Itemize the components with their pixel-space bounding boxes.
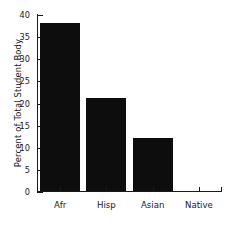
plot-area: 0510152025303540 AfrHispAsianNative — [37, 14, 222, 192]
y-tick-mark — [38, 192, 43, 193]
chart-title — [45, 0, 195, 2]
x-tick-label: Asian — [141, 200, 164, 210]
bar-chart: Percent of Total Student Body 0510152025… — [0, 0, 235, 225]
x-tick-mark — [106, 187, 107, 191]
y-tick-label: 10 — [20, 143, 30, 153]
x-tick-label: Afr — [54, 200, 66, 210]
x-axis-line — [37, 191, 222, 192]
x-tick-label: Hisp — [97, 200, 116, 210]
bar — [40, 23, 80, 191]
y-tick-label: 40 — [20, 10, 30, 20]
x-tick-mark — [60, 187, 61, 191]
y-tick-label: 5 — [25, 165, 30, 175]
y-tick-mark — [38, 15, 43, 16]
bar — [133, 138, 173, 191]
x-axis-right-cap — [221, 187, 222, 191]
y-tick-label: 20 — [20, 99, 30, 109]
x-tick-mark — [153, 187, 154, 191]
x-tick-label: Native — [185, 200, 213, 210]
x-tick-mark — [199, 187, 200, 191]
bar — [86, 98, 126, 191]
y-tick-label: 30 — [20, 54, 30, 64]
y-tick-label: 35 — [20, 32, 30, 42]
y-tick-label: 0 — [25, 187, 30, 197]
y-tick-label: 15 — [20, 121, 30, 131]
x-axis-left-cap — [37, 187, 38, 191]
y-tick-label: 25 — [20, 76, 30, 86]
